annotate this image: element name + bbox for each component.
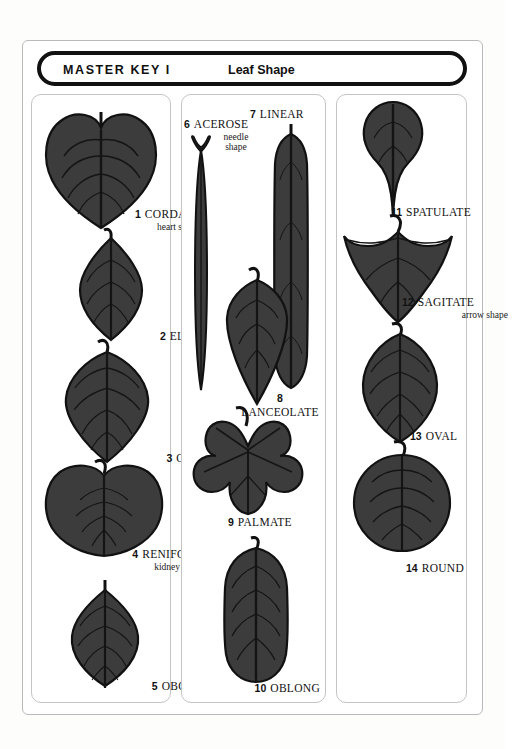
caption-round: 14 ROUND [406, 558, 513, 576]
leaf-figure-ovate: 3 OVATE [48, 338, 168, 468]
leaf-figure-obovate: 5 OBOVATE [50, 578, 170, 698]
caption-subtext: kidney shape [36, 562, 204, 572]
caption-number: 1 [135, 208, 141, 220]
caption-number: 5 [152, 680, 158, 692]
round-leaf-icon [346, 440, 458, 560]
leaf-figure-round: 14 ROUND [346, 440, 458, 560]
caption-number: 14 [406, 562, 418, 574]
caption-reniform: 4 RENIFORM kidney shape [36, 544, 204, 572]
leaf-figure-elliptic: 2 ELLIPTIC [56, 226, 166, 346]
caption-name: LINEAR [260, 108, 304, 120]
caption-name: ACEROSE [194, 118, 249, 130]
caption-sagitate: 12 SAGITATE arrow shape [402, 292, 512, 320]
caption-name: PALMATE [238, 516, 292, 528]
caption-number: 9 [228, 516, 234, 528]
caption-name: ROUND [422, 562, 464, 574]
palmate-leaf-icon [186, 406, 310, 518]
subject-title: Leaf Shape [228, 63, 295, 77]
caption-linear: 7 LINEAR [250, 104, 330, 122]
caption-number: 12 [402, 296, 414, 308]
caption-subtext: arrow shape [402, 310, 512, 320]
leaf-figure-oval: 13 OVAL [348, 322, 456, 446]
caption-number: 8 [277, 392, 283, 404]
caption-number: 10 [255, 682, 267, 694]
leaf-figure-sagitate: 12 SAGITATE arrow shape [340, 214, 458, 326]
lanceolate-leaf-icon [214, 266, 300, 408]
caption-number: 6 [184, 118, 190, 130]
leaf-figure-palmate [186, 406, 310, 518]
title-bar: MASTER KEY I Leaf Shape [37, 51, 467, 86]
caption-oblong: 10 OBLONG [170, 678, 320, 696]
master-key-title: MASTER KEY I [63, 63, 171, 77]
leaf-figure-cordate: 1 CORDATE heart shape [36, 104, 166, 234]
leaf-figure-reniform: 4 RENIFORM kidney shape [38, 458, 168, 568]
oblong-leaf-icon [208, 536, 304, 686]
caption-palmate: 9 PALMATE [228, 512, 328, 530]
leaf-figure-spatulate: 11 SPATULATE [345, 100, 445, 218]
caption-name: OBLONG [270, 682, 320, 694]
leaf-figure-lanceolate [214, 266, 300, 408]
spatulate-leaf-icon [345, 100, 445, 218]
caption-number: 4 [132, 548, 138, 560]
caption-number: 7 [250, 108, 256, 120]
caption-name: SAGITATE [418, 296, 474, 308]
leaf-figure-oblong [208, 536, 304, 686]
